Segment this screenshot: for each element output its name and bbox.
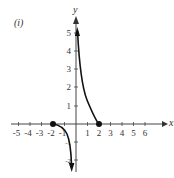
x-tick-labels: -5 -4 -3 -2 -1 1 2 3 4 5 6	[13, 128, 148, 138]
x-tick-label: -4	[24, 128, 32, 138]
y-tick-label: 4	[67, 46, 72, 56]
graph: (i) x y -5 -4 -3 -2 -1 1 2 3 4 5 6	[0, 0, 174, 178]
y-tick-label: 1	[67, 101, 72, 111]
x-axis-arrow-icon	[162, 121, 168, 127]
y-tick-label: 5	[67, 28, 72, 38]
left-branch-arrow-icon	[69, 163, 75, 172]
point-neg2-0	[50, 121, 56, 127]
panel-label: (i)	[14, 17, 24, 29]
x-tick-label: -2	[47, 128, 55, 138]
y-tick-label: 3	[67, 64, 72, 74]
y-axis-label: y	[72, 4, 78, 15]
x-tick-label: 4	[120, 128, 125, 138]
x-tick-label: -5	[13, 128, 21, 138]
x-tick-label: -1	[59, 128, 67, 138]
curve-right-branch	[78, 31, 100, 124]
x-tick-label: 5	[131, 128, 136, 138]
x-tick-label: 6	[143, 128, 148, 138]
x-tick-label: -3	[36, 128, 44, 138]
x-tick-label: 2	[97, 128, 102, 138]
x-tick-label: 1	[85, 128, 90, 138]
x-tick-label: 3	[108, 128, 113, 138]
x-axis-label: x	[168, 117, 174, 128]
point-2-0	[96, 121, 102, 127]
y-axis-arrow-icon	[73, 16, 79, 24]
y-tick-label: 2	[67, 82, 72, 92]
